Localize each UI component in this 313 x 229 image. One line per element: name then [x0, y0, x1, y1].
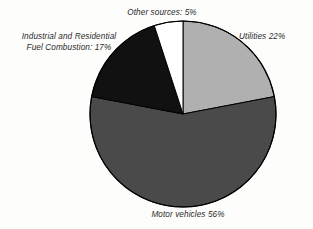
slice-label-utilities: Utilities 22% [239, 32, 311, 43]
slice-label-motor-vehicles: Motor vehicles 56% [118, 210, 258, 221]
slice-label-industrial-fuel-combustion: Industrial and Residential Fuel Combusti… [4, 32, 134, 53]
pie-chart-figure: Other sources: 5% Utilities 22% Industri… [0, 0, 313, 229]
slice-label-other-sources: Other sources: 5% [96, 8, 228, 19]
